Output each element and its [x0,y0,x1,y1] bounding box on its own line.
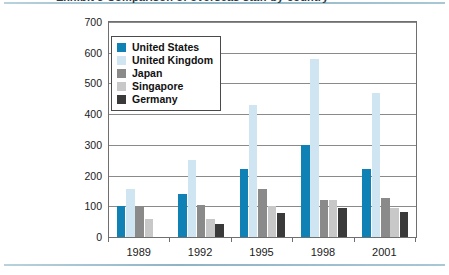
y-axis: 0100200300400500600700 [54,21,102,237]
figure-frame: Exhibit 3 Comparison of overseas staff b… [0,0,449,275]
x-axis-labels: 19891992199519982001 [108,246,417,262]
bar-germany-1992 [215,224,224,237]
gridline [109,22,416,23]
x-axis-tick [354,237,355,242]
x-axis-ticks [108,237,417,243]
legend-label: Singapore [132,81,183,92]
legend-label: Germany [132,94,178,105]
legend-swatch-icon [117,69,126,78]
bar-germany-1998 [338,208,347,237]
bar-united-states-2001 [362,169,371,237]
legend-label: United States [132,42,199,53]
x-axis-tick-label: 1992 [188,246,212,258]
y-axis-tick-label: 0 [56,231,102,243]
bottom-divider-rule [4,264,445,266]
legend-label: United Kingdom [132,55,213,66]
bar-united-states-1992 [178,194,187,237]
bar-united-kingdom-1998 [310,59,319,237]
bar-united-states-1995 [240,169,249,237]
bar-singapore-1995 [268,206,277,237]
y-axis-tick-label: 500 [56,77,102,89]
gridline [109,114,416,115]
bar-singapore-1992 [206,219,215,237]
bar-united-kingdom-1992 [188,160,197,237]
x-axis-tick-label: 2001 [372,246,396,258]
y-axis-tick-label: 300 [56,139,102,151]
bar-japan-1989 [135,206,144,237]
bar-japan-2001 [381,198,390,237]
bar-germany-1995 [277,213,286,237]
legend-swatch-icon [117,82,126,91]
chart-legend: United StatesUnited KingdomJapanSingapor… [111,36,221,111]
bar-united-kingdom-1989 [126,189,135,237]
x-axis-tick [108,237,109,242]
bar-germany-2001 [400,212,409,237]
legend-item-united-kingdom: United Kingdom [117,54,213,67]
legend-swatch-icon [117,43,126,52]
bar-japan-1992 [197,205,206,237]
cropped-heading-text: Exhibit 3 Comparison of overseas staff b… [56,0,329,3]
legend-label: Japan [132,68,162,79]
legend-item-japan: Japan [117,67,213,80]
x-axis-tick [292,237,293,242]
legend-swatch-icon [117,95,126,104]
bar-singapore-1989 [145,219,154,237]
x-axis-tick [231,237,232,242]
legend-item-united-states: United States [117,41,213,54]
bar-united-states-1998 [301,145,310,237]
y-axis-tick-label: 200 [56,170,102,182]
legend-swatch-icon [117,56,126,65]
bar-united-states-1989 [117,206,126,237]
bar-chart: 0100200300400500600700 19891992199519982… [0,6,449,261]
x-axis-tick [415,237,416,242]
legend-item-singapore: Singapore [117,80,213,93]
gridline [109,176,416,177]
legend-item-germany: Germany [117,93,213,106]
x-axis-tick-label: 1998 [311,246,335,258]
y-axis-tick-label: 600 [56,47,102,59]
bar-singapore-2001 [390,208,399,237]
y-axis-tick-label: 700 [56,16,102,28]
y-axis-tick-label: 100 [56,200,102,212]
x-axis-tick-label: 1989 [126,246,150,258]
y-axis-tick-label: 400 [56,108,102,120]
bar-japan-1995 [258,189,267,237]
gridline [109,145,416,146]
gridline [109,206,416,207]
x-axis-tick [169,237,170,242]
cropped-heading-sliver: Exhibit 3 Comparison of overseas staff b… [56,0,386,4]
bar-united-kingdom-1995 [249,105,258,237]
x-axis-tick-label: 1995 [249,246,273,258]
